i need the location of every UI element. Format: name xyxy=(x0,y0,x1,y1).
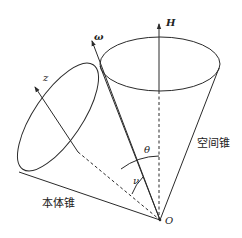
nu-label: ν xyxy=(133,175,139,186)
nu-angle: ν xyxy=(132,175,143,194)
omega-label: ω xyxy=(94,31,104,42)
origin-point xyxy=(159,219,162,222)
origin-label: O xyxy=(165,215,173,226)
body-cone-label: 本体锥 xyxy=(42,196,75,210)
space-cone-label: 空间锥 xyxy=(197,136,230,150)
H-axis: H xyxy=(159,17,176,219)
body-cone-rim xyxy=(3,51,113,182)
theta-label: θ xyxy=(144,144,150,155)
z-axis-dashed xyxy=(78,152,160,220)
z-axis-arrow xyxy=(35,87,78,152)
H-label: H xyxy=(165,17,176,28)
z-label: z xyxy=(42,72,49,83)
space-cone-rim xyxy=(100,37,220,91)
theta-angle: θ xyxy=(121,144,159,169)
omega-arrow xyxy=(92,41,160,220)
body-space-cone-diagram: H ω z θ ν O 本体锥 空间锥 xyxy=(0,0,242,238)
space-cone xyxy=(100,37,220,220)
body-cone xyxy=(3,51,160,220)
